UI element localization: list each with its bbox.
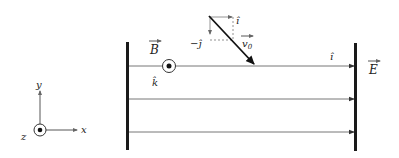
svg-text:B: B bbox=[149, 43, 159, 57]
coordinate-axes bbox=[34, 91, 77, 136]
svg-text:v0: v0 bbox=[242, 38, 253, 51]
left-plate bbox=[126, 42, 129, 150]
z-axis-label: z bbox=[20, 131, 27, 142]
right-plate bbox=[354, 43, 357, 151]
e-vector-label: E bbox=[368, 61, 380, 77]
y-axis-label: y bbox=[35, 79, 42, 90]
k-hat-label: k̂ bbox=[152, 76, 158, 88]
x-axis-label: x bbox=[81, 124, 87, 135]
electric-field-lines bbox=[129, 66, 354, 132]
v0-label: v0 bbox=[241, 36, 253, 51]
svg-text:E: E bbox=[368, 63, 378, 77]
b-vector-label: B bbox=[149, 41, 161, 57]
z-axis-out-of-page-icon bbox=[34, 124, 46, 136]
minus-j-hat-label: −ĵ bbox=[190, 38, 202, 49]
i-hat-top-label: î bbox=[236, 15, 240, 26]
i-hat-field-label: î bbox=[330, 51, 334, 62]
magnetic-field-out-of-page-icon bbox=[163, 60, 176, 73]
diagram-canvas: B k̂ î −ĵ v0 î E y x z bbox=[0, 0, 399, 158]
